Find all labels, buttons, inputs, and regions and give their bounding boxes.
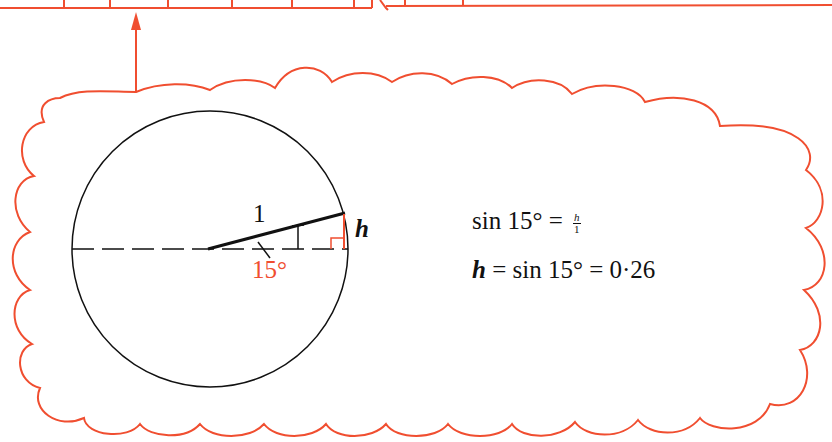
opposite-label: h <box>355 215 369 243</box>
angle-label: 15° <box>252 256 287 284</box>
right-angle-icon <box>331 238 344 249</box>
cloud-border <box>13 68 825 436</box>
equation-2-var: h <box>472 256 486 283</box>
diagram-canvas <box>0 0 832 442</box>
radius-label: 1 <box>253 200 266 228</box>
equation-1-lhs: sin 15° = <box>472 207 569 234</box>
equation-line-1: sin 15° = h1 <box>472 207 581 235</box>
up-arrow-icon <box>131 12 141 92</box>
fraction-h-over-1: h1 <box>573 212 581 235</box>
equation-2-rest: = sin 15° = 0·26 <box>486 256 655 283</box>
equation-line-2: h = sin 15° = 0·26 <box>472 256 655 284</box>
radius-line <box>208 213 345 249</box>
top-strip <box>0 0 832 10</box>
